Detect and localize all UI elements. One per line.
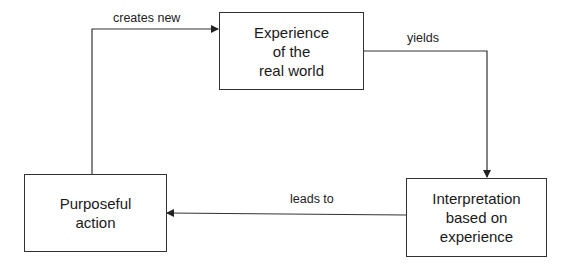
- node-action: Purposeful action: [24, 174, 167, 252]
- edge-leads-to: [167, 213, 406, 215]
- edge-yields: [363, 51, 487, 177]
- node-interpretation: Interpretation based on experience: [406, 178, 547, 257]
- node-experience: Experience of the real world: [219, 12, 364, 90]
- edge-label-leads-to: leads to: [290, 192, 334, 206]
- edge-creates-new: [92, 29, 218, 174]
- edge-label-yields: yields: [407, 31, 439, 45]
- edge-label-creates-new: creates new: [113, 11, 180, 25]
